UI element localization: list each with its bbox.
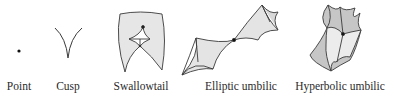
point-figure [17, 49, 20, 52]
label-hyperbolic-umbilic: Hyperbolic umbilic [295, 80, 385, 92]
cusp-figure [55, 28, 82, 58]
label-cusp: Cusp [56, 80, 80, 92]
label-elliptic-umbilic: Elliptic umbilic [205, 80, 277, 92]
elliptic-umbilic-figure [182, 5, 278, 75]
hyperbolic-umbilic-figure [310, 5, 361, 71]
label-point: Point [7, 80, 31, 92]
label-swallowtail: Swallowtail [114, 80, 169, 92]
swallowtail-figure [118, 12, 164, 72]
